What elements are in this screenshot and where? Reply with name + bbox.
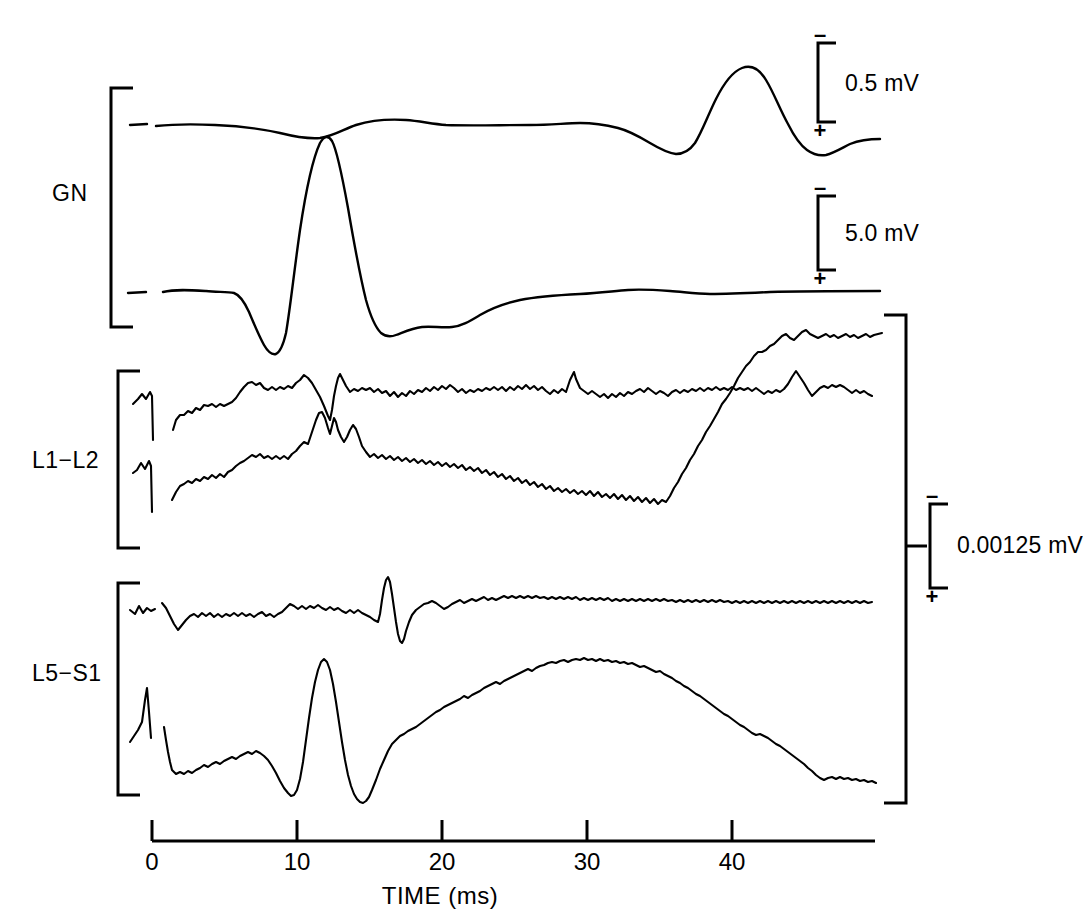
trace-l5s1-1-artifact (130, 606, 155, 614)
trace-gn-1-artifact (130, 124, 147, 125)
trace-gn-2 (163, 137, 880, 354)
trace-l1l2-1 (173, 371, 872, 430)
calibration-positive-symbol-0.00125mv: + (926, 584, 939, 610)
calibration-bar-5.0mv (818, 196, 836, 270)
axis-tick-label-10: 10 (284, 848, 311, 876)
calibration-negative-symbol-0.5mv: – (814, 22, 826, 48)
trace-l1l2-1-artifact (133, 392, 153, 440)
bracket-right-master (884, 315, 906, 803)
calibration-positive-symbol-0.5mv: + (814, 118, 827, 144)
group-label-gn: GN (52, 180, 88, 207)
axis-tick-label-20: 20 (429, 848, 456, 876)
group-label-l5-s1: L5−S1 (32, 660, 102, 687)
trace-l5s1-1 (162, 577, 872, 643)
trace-l5s1-2-artifact (130, 688, 151, 742)
axis-tick-label-0: 0 (145, 848, 158, 876)
calibration-bar-0.5mv (818, 43, 836, 122)
trace-l5s1-2 (164, 658, 876, 803)
calibration-positive-symbol-5.0mv: + (814, 266, 827, 292)
axis-tick-label-30: 30 (574, 848, 601, 876)
calibration-label-0.5mv: 0.5 mV (845, 70, 919, 97)
bracket-l5-s1 (118, 583, 140, 795)
calibration-negative-symbol-5.0mv: – (814, 175, 826, 201)
trace-gn-1 (156, 67, 880, 156)
trace-l1l2-2 (172, 330, 882, 504)
calibration-bar-0.00125mv (930, 504, 948, 588)
axis-title-time: TIME (ms) (382, 882, 498, 910)
axis-tick-label-40: 40 (719, 848, 746, 876)
trace-l1l2-2-artifact (133, 461, 152, 512)
bracket-l1-l2 (118, 371, 140, 548)
calibration-label-0.00125mv: 0.00125 mV (957, 532, 1083, 559)
group-label-l1-l2: L1−L2 (32, 447, 99, 474)
calibration-negative-symbol-0.00125mv: – (926, 483, 938, 509)
calibration-label-5.0mv: 5.0 mV (845, 220, 919, 247)
trace-gn-2-artifact (128, 292, 146, 293)
